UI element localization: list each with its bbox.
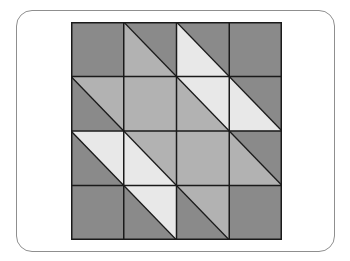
quilt-cell-solid: [229, 22, 282, 77]
quilt-pattern-grid: [71, 22, 282, 240]
quilt-cell-solid: [71, 22, 124, 77]
quilt-cell-solid: [71, 186, 124, 241]
quilt-cell-solid: [124, 77, 177, 132]
quilt-cell-solid: [229, 186, 282, 241]
quilt-cell-solid: [177, 131, 230, 186]
quilt-pattern-svg: [71, 22, 282, 240]
